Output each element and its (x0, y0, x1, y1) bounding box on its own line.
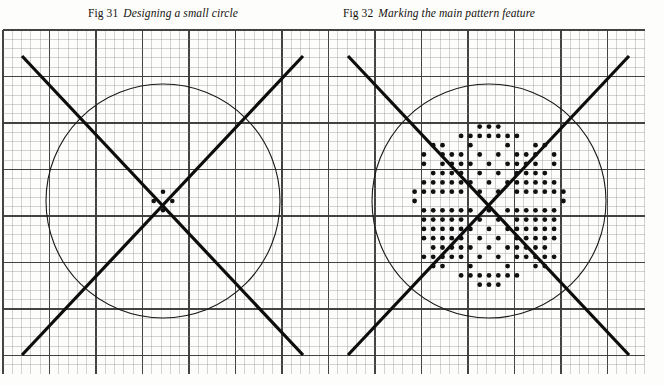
pattern-dot (440, 152, 445, 157)
pattern-dot (449, 180, 454, 185)
pattern-dot (524, 236, 529, 241)
pattern-dot (487, 227, 492, 232)
caption-fig31-label: Fig 31 (88, 7, 118, 19)
pattern-dot (515, 236, 520, 241)
pattern-dot (468, 208, 473, 213)
pattern-dot (533, 236, 538, 241)
pattern-dot (412, 189, 417, 194)
pattern-dot (459, 152, 464, 157)
pattern-dot (533, 180, 538, 185)
pattern-dot (561, 189, 566, 194)
pattern-dot (459, 273, 464, 278)
pattern-dot (533, 254, 538, 259)
pattern-dot (552, 180, 557, 185)
pattern-dot (524, 245, 529, 250)
pattern-dot (422, 217, 427, 222)
graph-paper-svg (0, 22, 664, 382)
pattern-dot (431, 217, 436, 222)
pattern-dot (431, 171, 436, 176)
pattern-dot (496, 273, 501, 278)
pattern-dot (552, 254, 557, 259)
pattern-dot (524, 152, 529, 157)
pattern-dot (533, 152, 538, 157)
pattern-dot (515, 208, 520, 213)
pattern-dot (496, 254, 501, 259)
pattern-dot (542, 227, 547, 232)
pattern-dot (542, 217, 547, 222)
grid-layer (3, 30, 645, 382)
pattern-dot (468, 273, 473, 278)
pattern-dot (542, 236, 547, 241)
pattern-dot (524, 227, 529, 232)
pattern-dot (449, 189, 454, 194)
pattern-dot (515, 227, 520, 232)
pattern-dot (552, 189, 557, 194)
pattern-dot (552, 227, 557, 232)
pattern-dot (533, 171, 538, 176)
pattern-dot (552, 152, 557, 157)
pattern-dot (449, 227, 454, 232)
pattern-dot (542, 245, 547, 250)
pattern-dot (422, 152, 427, 157)
pattern-dot (431, 180, 436, 185)
pattern-dot (487, 208, 492, 213)
pattern-dot (542, 189, 547, 194)
pattern-dot (487, 180, 492, 185)
pattern-dot (477, 217, 482, 222)
pattern-dot (496, 134, 501, 139)
pattern-dot (431, 189, 436, 194)
pattern-dot (477, 189, 482, 194)
pattern-dot (459, 217, 464, 222)
pattern-dot (431, 208, 436, 213)
pattern-dot (477, 152, 482, 157)
pattern-dot (440, 264, 445, 269)
pattern-dot (505, 264, 510, 269)
pattern-dot (440, 143, 445, 148)
pattern-dot (477, 124, 482, 129)
figure-plate: Fig 31Designing a small circle Fig 32Mar… (0, 0, 664, 386)
pattern-dot (468, 245, 473, 250)
center-marker-dot (151, 199, 156, 204)
pattern-dot (459, 161, 464, 166)
pattern-dot (524, 171, 529, 176)
fig32-main-pattern (348, 56, 629, 355)
caption-fig31: Fig 31Designing a small circle (88, 7, 238, 19)
pattern-dot (422, 254, 427, 259)
fig31-small-circle (22, 56, 303, 355)
pattern-dot (533, 217, 538, 222)
pattern-dot (459, 245, 464, 250)
pattern-dot (515, 180, 520, 185)
pattern-dot (477, 273, 482, 278)
pattern-dot (440, 161, 445, 166)
pattern-dot (422, 161, 427, 166)
pattern-dot (449, 217, 454, 222)
pattern-dot (431, 236, 436, 241)
graph-paper-plate (0, 22, 664, 382)
pattern-dot (515, 189, 520, 194)
pattern-dot (449, 245, 454, 250)
pattern-dot (524, 254, 529, 259)
pattern-dot (468, 161, 473, 166)
pattern-dot (412, 199, 417, 204)
caption-fig32: Fig 32Marking the main pattern feature (343, 7, 535, 19)
pattern-dot (552, 217, 557, 222)
pattern-dot (487, 273, 492, 278)
pattern-dot (431, 143, 436, 148)
pattern-dot (422, 227, 427, 232)
pattern-dot (449, 208, 454, 213)
pattern-dot (440, 189, 445, 194)
pattern-dot (515, 171, 520, 176)
pattern-dot (496, 282, 501, 287)
center-marker-dot (170, 199, 175, 204)
caption-fig32-label: Fig 32 (343, 7, 373, 19)
pattern-dot (496, 236, 501, 241)
pattern-dot (487, 134, 492, 139)
pattern-dot (440, 208, 445, 213)
pattern-dot (459, 208, 464, 213)
pattern-dot (449, 171, 454, 176)
pattern-dot (459, 227, 464, 232)
pattern-dot (440, 227, 445, 232)
pattern-dot (542, 208, 547, 213)
pattern-dot (459, 189, 464, 194)
pattern-dot (449, 152, 454, 157)
